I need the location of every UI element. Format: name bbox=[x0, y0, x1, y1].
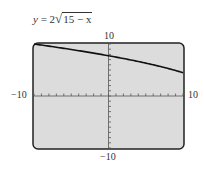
graph-window bbox=[0, 0, 204, 170]
